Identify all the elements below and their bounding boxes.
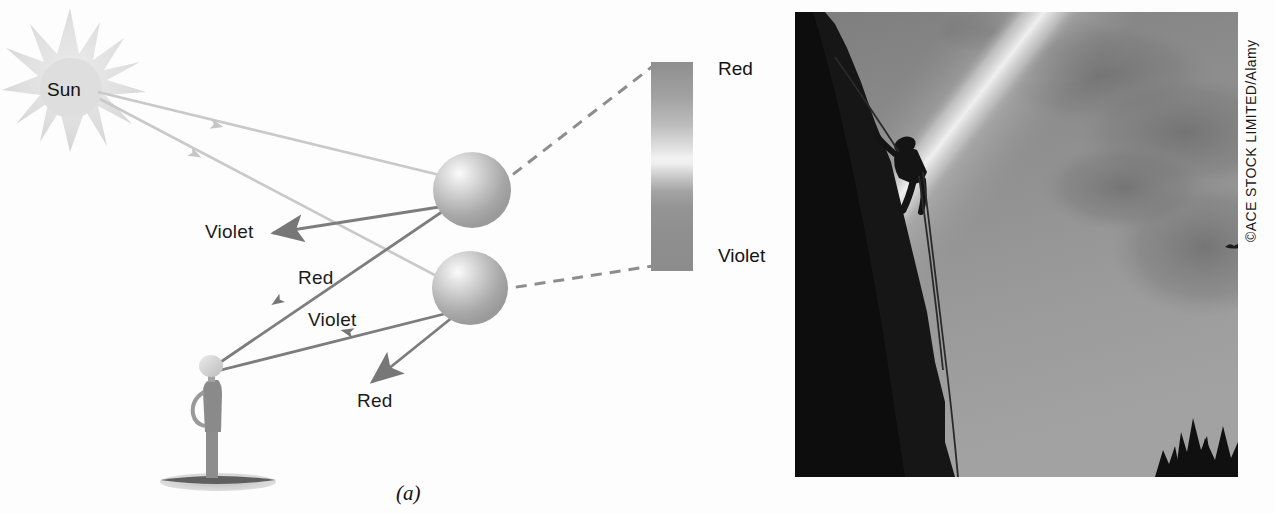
- photograph-content: [795, 12, 1238, 477]
- person-torso: [203, 380, 222, 432]
- label-upper-violet: Violet: [205, 221, 253, 243]
- water-drop-lower: [432, 251, 508, 325]
- sunray-to-upper-drop: [98, 92, 452, 178]
- dashed-line-lower-drop-to-spectrum: [497, 266, 653, 290]
- label-lower-red: Red: [357, 390, 392, 412]
- panel-a-caption: (a): [396, 481, 421, 506]
- person-head: [199, 355, 223, 377]
- label-middle-red: Red: [298, 267, 333, 289]
- photo-credit-text: ©ACE STOCK LIMITED/Alamy: [1243, 40, 1259, 242]
- observer-person: [160, 355, 276, 491]
- panel-a-ray-diagram: Sun Violet Red Violet Red Red Violet (a): [0, 0, 790, 513]
- sunray-to-lower-drop: [100, 99, 448, 282]
- water-drop-upper: [433, 152, 511, 228]
- person-arm: [193, 392, 205, 426]
- sun-label: Sun: [47, 79, 81, 101]
- spectrum-bar: [651, 62, 693, 271]
- sunlight-ray-group: [98, 92, 452, 282]
- spectrum-top-label: Red: [718, 58, 753, 80]
- ray-upper-drop-violet: [273, 205, 452, 233]
- rainbow-photograph: [795, 12, 1238, 477]
- spectrum-bottom-label: Violet: [718, 245, 765, 267]
- panel-b-photograph: (b): [790, 0, 1275, 513]
- dashed-line-upper-drop-to-spectrum: [498, 66, 653, 186]
- label-middle-violet: Violet: [308, 309, 356, 331]
- figure-rainbow-formation: Sun Violet Red Violet Red Red Violet (a): [0, 0, 1275, 513]
- ray-upper-drop-red-arrowhead: [269, 294, 285, 310]
- dashed-sightline-group: [497, 66, 653, 290]
